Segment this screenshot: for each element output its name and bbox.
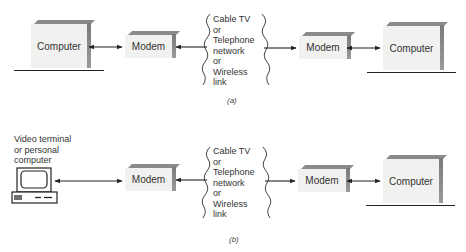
panel-a-right-brace-icon: [262, 14, 270, 85]
panel-b-left-brace-icon: [202, 147, 210, 218]
panel-a-left-brace-icon: [202, 14, 210, 85]
connector-overlay: [0, 0, 466, 252]
panel-b-right-brace-icon: [263, 147, 271, 218]
video-terminal-icon: [12, 168, 57, 203]
